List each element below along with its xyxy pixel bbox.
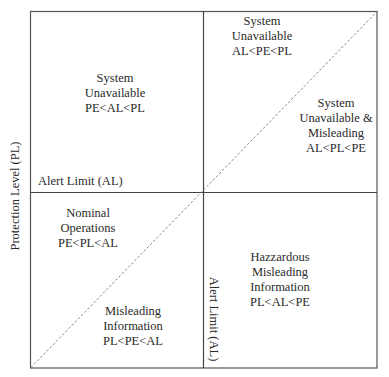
region-line: Nominal xyxy=(58,206,118,221)
region-line: System xyxy=(232,14,292,29)
region-line: Operations xyxy=(58,221,118,236)
region-line: Unavailable xyxy=(232,29,292,44)
diagram-lines xyxy=(0,0,389,377)
region-system-unavailable-top-right: System Unavailable AL<PE<PL xyxy=(232,14,292,59)
integrity-diagram: Protection Level (PL) Alert Limit (AL) A… xyxy=(0,0,389,377)
alert-limit-vertical-label: Alert Limit (AL) xyxy=(207,277,221,362)
region-line: AL<PE<PL xyxy=(232,44,292,59)
region-line: Misleading xyxy=(103,304,163,319)
region-line: PE<AL<PL xyxy=(85,101,145,116)
region-line: AL<PL<PE xyxy=(299,141,372,156)
region-line: Unavailable & xyxy=(299,111,372,126)
region-misleading-information: Misleading Information PL<PE<AL xyxy=(103,304,163,349)
region-line: System xyxy=(85,71,145,86)
region-line: Misleading xyxy=(250,265,310,280)
region-line: PL<AL<PE xyxy=(250,295,310,310)
region-line: Unavailable xyxy=(85,86,145,101)
region-line: PE<PL<AL xyxy=(58,236,118,251)
region-line: System xyxy=(299,96,372,111)
region-system-unavailable-misleading: System Unavailable & Misleading AL<PL<PE xyxy=(299,96,372,156)
region-system-unavailable-top-left: System Unavailable PE<AL<PL xyxy=(85,71,145,116)
y-axis-label-protection-level: Protection Level (PL) xyxy=(8,142,22,251)
region-nominal-operations: Nominal Operations PE<PL<AL xyxy=(58,206,118,251)
region-line: Information xyxy=(103,319,163,334)
region-line: Information xyxy=(250,280,310,295)
region-line: Hazzardous xyxy=(250,250,310,265)
region-hazardous-misleading-information: Hazzardous Misleading Information PL<AL<… xyxy=(250,250,310,310)
region-line: PL<PE<AL xyxy=(103,334,163,349)
region-line: Misleading xyxy=(299,126,372,141)
alert-limit-horizontal-label: Alert Limit (AL) xyxy=(38,174,123,188)
